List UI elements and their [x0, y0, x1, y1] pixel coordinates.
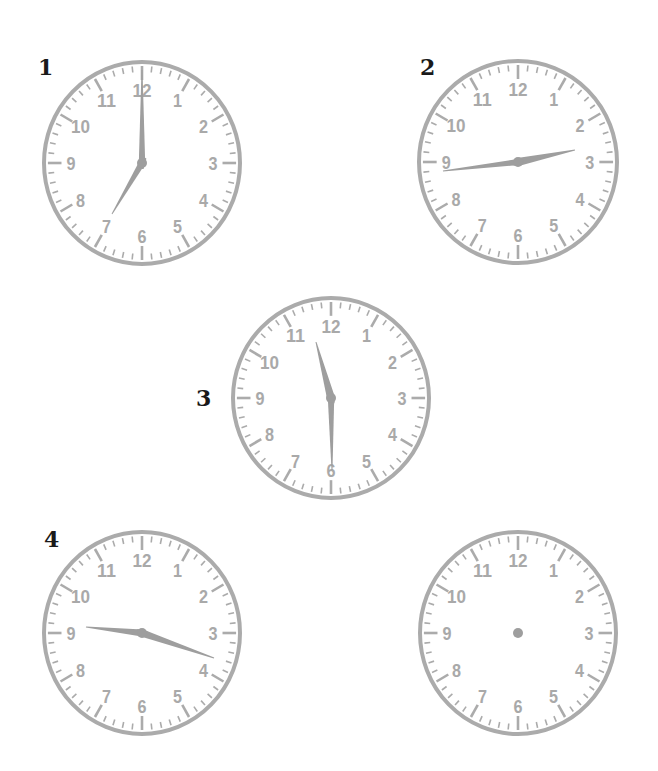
numeral-7: 7	[291, 451, 300, 472]
numeral-7: 7	[478, 686, 487, 707]
clock-number-label: 4	[44, 528, 59, 550]
numeral-11: 11	[97, 90, 116, 111]
numeral-2: 2	[576, 115, 585, 136]
minute-hand	[136, 629, 215, 658]
numeral-6: 6	[138, 226, 147, 247]
numeral-12: 12	[509, 79, 528, 100]
clock-number-label: 1	[38, 56, 53, 78]
numeral-11: 11	[473, 89, 492, 110]
numeral-7: 7	[478, 215, 487, 236]
numeral-1: 1	[549, 89, 558, 110]
center-hub	[513, 157, 523, 167]
numeral-6: 6	[514, 696, 523, 717]
minute-hand	[443, 159, 524, 172]
clock-worksheet: 1212345678910111121234567891011212123456…	[0, 0, 658, 771]
numeral-11: 11	[286, 325, 305, 346]
numeral-5: 5	[549, 215, 558, 236]
numeral-8: 8	[76, 660, 85, 681]
numeral-3: 3	[398, 388, 407, 409]
numeral-5: 5	[549, 686, 558, 707]
numeral-4: 4	[576, 189, 585, 210]
numeral-6: 6	[327, 460, 336, 481]
numeral-1: 1	[173, 90, 182, 111]
numeral-8: 8	[451, 189, 460, 210]
numeral-4: 4	[388, 424, 397, 445]
center-hub	[137, 628, 147, 638]
numeral-12: 12	[322, 316, 341, 337]
center-hub	[326, 393, 336, 403]
center-hub	[137, 158, 147, 168]
numeral-2: 2	[199, 586, 208, 607]
numeral-10: 10	[446, 115, 465, 136]
numeral-4: 4	[199, 190, 208, 211]
center-hub	[513, 628, 523, 638]
numeral-7: 7	[102, 686, 111, 707]
numeral-1: 1	[173, 560, 182, 581]
numeral-9: 9	[67, 153, 76, 174]
numeral-5: 5	[173, 686, 182, 707]
numeral-9: 9	[67, 623, 76, 644]
numeral-3: 3	[209, 153, 218, 174]
numeral-7: 7	[102, 216, 111, 237]
clock-face: 121234567891011	[36, 54, 248, 272]
numeral-5: 5	[173, 216, 182, 237]
clock-number-label: 3	[196, 387, 211, 409]
numeral-9: 9	[443, 623, 452, 644]
clock-number-label: 2	[420, 56, 435, 78]
numeral-10: 10	[71, 586, 90, 607]
numeral-4: 4	[199, 660, 208, 681]
numeral-8: 8	[265, 424, 274, 445]
numeral-3: 3	[585, 623, 594, 644]
numeral-8: 8	[452, 660, 461, 681]
numeral-10: 10	[447, 586, 466, 607]
numeral-4: 4	[575, 660, 584, 681]
numeral-2: 2	[199, 116, 208, 137]
numeral-10: 10	[71, 116, 90, 137]
numeral-5: 5	[362, 451, 371, 472]
numeral-1: 1	[362, 325, 371, 346]
numeral-1: 1	[549, 560, 558, 581]
numeral-11: 11	[473, 560, 492, 581]
clock-face: 121234567891011	[225, 290, 437, 506]
clock-face: 121234567891011	[411, 53, 625, 271]
clock-face: 121234567891011	[36, 524, 248, 742]
minute-hand	[328, 392, 334, 470]
numeral-9: 9	[256, 388, 265, 409]
numeral-10: 10	[260, 352, 279, 373]
numeral-12: 12	[509, 550, 528, 571]
numeral-11: 11	[97, 560, 116, 581]
clock-face: 121234567891011	[412, 524, 624, 742]
numeral-8: 8	[76, 190, 85, 211]
numeral-2: 2	[388, 352, 397, 373]
numeral-6: 6	[138, 696, 147, 717]
numeral-12: 12	[133, 550, 152, 571]
numeral-3: 3	[585, 152, 594, 173]
numeral-3: 3	[209, 623, 218, 644]
numeral-2: 2	[575, 586, 584, 607]
numeral-6: 6	[514, 225, 523, 246]
